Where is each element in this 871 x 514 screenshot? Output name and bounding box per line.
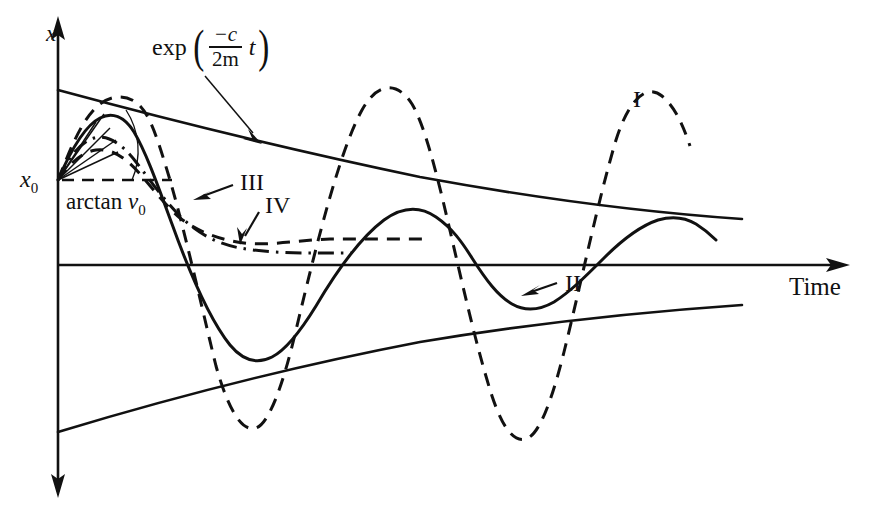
damped-oscillation-figure: x Time x0 arctan v0 III IV I II exp ( −c… — [0, 0, 871, 514]
curve-II-leader — [521, 283, 557, 296]
formula-close-paren: ) — [258, 29, 269, 65]
arctan-v0-label: arctan v0 — [66, 190, 146, 218]
x0-label: x0 — [20, 167, 38, 196]
curve-I-label: I — [633, 87, 641, 111]
y-axis-label: x — [46, 22, 56, 45]
arctan-variable: v — [128, 189, 138, 214]
curve-I-path — [58, 88, 690, 440]
formula-exp-text: exp — [152, 35, 187, 59]
x0-label-subscript: 0 — [31, 180, 39, 196]
curve-II-label: II — [565, 271, 581, 295]
formula-fraction: −c 2m — [209, 24, 242, 70]
x0-label-base: x — [20, 166, 31, 192]
arctan-prefix: arctan — [66, 189, 128, 214]
lower-envelope-curve — [58, 305, 742, 432]
formula-open-paren: ( — [193, 29, 204, 65]
figure-canvas — [0, 0, 871, 514]
arctan-subscript: 0 — [138, 202, 146, 218]
x-axis-label: Time — [789, 274, 841, 299]
formula-numerator: −c — [211, 24, 241, 46]
initial-slope-rays — [58, 114, 118, 180]
curve-IV-leader — [237, 212, 259, 245]
formula-denominator: 2m — [209, 48, 242, 70]
envelope-formula: exp ( −c 2m t ) — [152, 24, 271, 70]
y-axis — [51, 16, 65, 498]
formula-variable: t — [249, 35, 256, 59]
angle-arc — [126, 110, 138, 180]
x-axis — [58, 258, 850, 272]
curve-III-label: III — [240, 170, 264, 194]
curve-IV-label: IV — [265, 193, 290, 217]
curve-III-leader — [193, 185, 233, 200]
